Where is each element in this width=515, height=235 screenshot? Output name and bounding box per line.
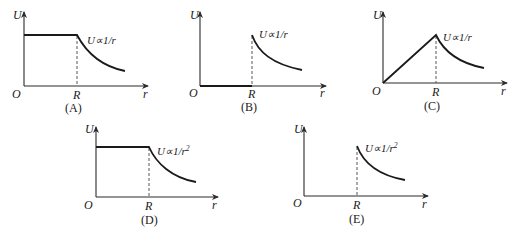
origin-label: O [293,196,302,210]
radius-tick-label: R [72,88,81,102]
x-axis-label: r [212,198,217,212]
origin-label: O [372,84,381,98]
panel-e: U r O R U∝1/r2 (E) [293,122,428,226]
panel-caption: (A) [65,101,82,115]
y-axis-label: U [13,8,23,22]
panel-d: U r O R U∝1/r2 (D) [84,122,218,227]
y-axis-label: U [294,122,304,136]
origin-label: O [12,87,21,101]
origin-label: O [189,86,198,100]
panel-b: U r O R U∝1/r (B) [189,8,326,114]
x-axis-label: r [143,87,148,101]
radius-tick-label: R [247,87,256,101]
panel-caption: (B) [241,100,257,114]
y-axis-label: U [373,8,383,22]
origin-label: O [84,198,93,212]
panel-caption: (E) [349,212,364,226]
panel-a: U r O R U∝1/r (A) [12,8,148,115]
equation-label: U∝1/r [443,31,473,43]
figure-canvas: U r O R U∝1/r (A) U r O R U∝1/r (B) U r … [0,0,515,235]
radius-tick-label: R [431,85,440,99]
panel-c: U r O R U∝1/r (C) [372,8,507,113]
equation-label: U∝1/r [259,28,289,40]
panel-caption: (C) [424,99,440,113]
equation-label: U∝1/r2 [157,144,190,157]
radius-tick-label: R [144,199,153,213]
radius-tick-label: R [352,198,361,212]
equation-label: U∝1/r [87,34,117,46]
panel-caption: (D) [141,213,158,227]
equation-label: U∝1/r2 [365,141,398,154]
y-axis-label: U [190,8,200,22]
y-axis-label: U [85,122,95,136]
potential-curve [252,35,302,70]
x-axis-label: r [422,197,427,211]
x-axis-label: r [501,84,506,98]
x-axis-label: r [320,86,325,100]
